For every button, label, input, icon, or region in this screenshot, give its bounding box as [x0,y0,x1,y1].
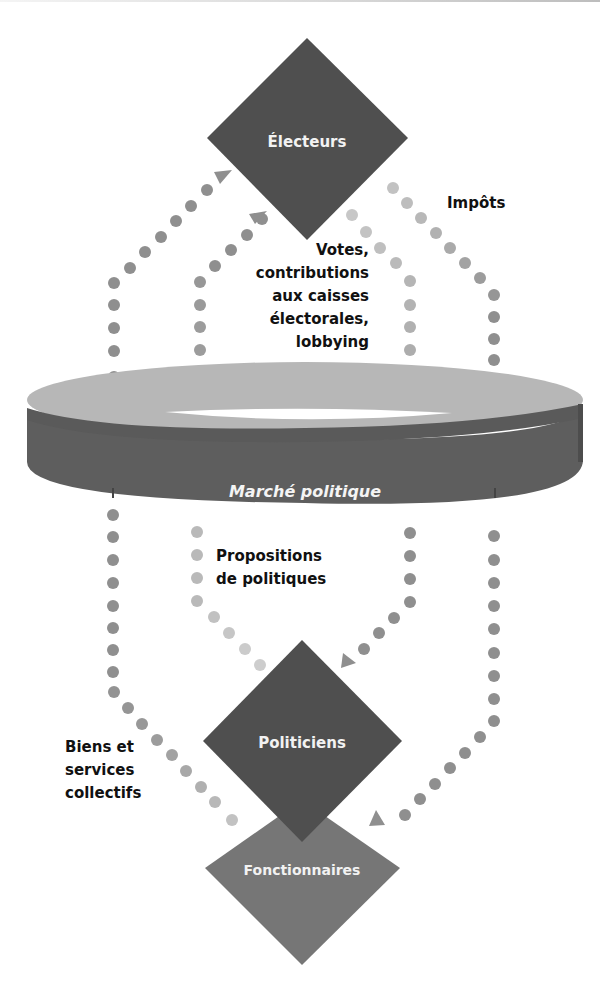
svg-text:Votes,: Votes, [316,241,369,259]
svg-text:Impôts: Impôts [447,194,505,212]
flow-label-propositions: Propositions de politiques [216,547,326,588]
flow-label-biens-services: Biens et services collectifs [65,738,141,802]
svg-text:de politiques: de politiques [216,570,326,588]
node-marche-politique-label: Marché politique [229,482,381,501]
node-marche-politique: Marché politique [27,362,583,504]
svg-text:contributions: contributions [256,264,369,282]
svg-text:collectifs: collectifs [65,784,141,802]
arrowhead-icon [341,653,356,668]
node-fonctionnaires-label: Fonctionnaires [244,862,361,878]
arrowhead-icon [369,810,385,826]
svg-text:services: services [65,761,134,779]
node-politiciens-label: Politiciens [258,734,346,752]
political-market-diagram: Électeurs Marché politique Fonctionnaire… [0,0,600,987]
arrowhead-icon [214,170,232,184]
node-electeurs: Électeurs [207,38,408,240]
svg-text:lobbying: lobbying [296,333,369,351]
flow-label-votes: Votes, contributions aux caisses élector… [256,241,369,351]
flow-path-propositions-right [341,527,416,668]
node-politiciens: Politiciens [203,640,402,842]
svg-text:électorales,: électorales, [270,310,369,328]
svg-text:aux caisses: aux caisses [272,287,369,305]
flow-label-impots: Impôts [447,194,505,212]
svg-text:Propositions: Propositions [216,547,322,565]
svg-text:Biens et: Biens et [65,738,134,756]
node-electeurs-label: Électeurs [268,132,347,151]
